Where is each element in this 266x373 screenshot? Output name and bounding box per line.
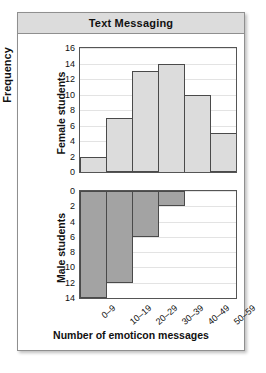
bar <box>80 191 107 298</box>
page-title: Text Messaging <box>89 17 174 29</box>
bar <box>132 191 159 237</box>
y-axis-tick-label: 6 <box>49 233 75 242</box>
y-axis-tick-label: 2 <box>49 153 75 162</box>
y-axis-tick-label: 8 <box>49 106 75 115</box>
y-axis-tick-label: 14 <box>49 60 75 69</box>
y-axis-tick-label: 8 <box>49 248 75 257</box>
plot-area-female <box>79 47 237 173</box>
y-axis-tick-label: 14 <box>49 294 75 303</box>
bar <box>158 191 185 206</box>
bar <box>106 118 133 172</box>
x-axis-tick-label: 40–49 <box>206 303 232 327</box>
chart-title-banner: Text Messaging <box>18 13 244 34</box>
bar <box>210 133 237 172</box>
y-axis-tick-label: 12 <box>49 279 75 288</box>
y-axis-tick-label: 12 <box>49 75 75 84</box>
bar <box>158 64 185 173</box>
x-axis-tick-label: 50–59 <box>232 303 258 327</box>
y-axis-tick-label: 4 <box>49 218 75 227</box>
x-axis-tick-label: 10–19 <box>128 303 154 327</box>
bar <box>184 95 211 173</box>
y-axis-tick-label: 10 <box>49 263 75 272</box>
y-axis-label-frequency: Frequency <box>1 15 13 135</box>
bar <box>80 157 107 173</box>
figure-page: Text Messaging Female students Male stud… <box>0 0 266 373</box>
x-axis-tick-label: 0–9 <box>100 303 118 320</box>
y-axis-tick-label: 4 <box>49 137 75 146</box>
bars-male <box>80 191 236 298</box>
y-axis-tick-label: 16 <box>49 44 75 53</box>
bar <box>106 191 133 283</box>
chart-figure: Text Messaging Female students Male stud… <box>17 12 245 351</box>
x-axis-tick-label: 30–39 <box>180 303 206 327</box>
y-axis-tick-label: 0 <box>49 187 75 196</box>
x-axis-tick-label: 20–29 <box>154 303 180 327</box>
gridline <box>80 298 236 299</box>
x-axis-label: Number of emoticon messages <box>18 329 244 341</box>
y-axis-tick-label: 6 <box>49 122 75 131</box>
bar <box>132 71 159 172</box>
bars-female <box>80 48 236 172</box>
y-axis-tick-label: 10 <box>49 91 75 100</box>
y-axis-tick-label: 2 <box>49 202 75 211</box>
plot-area-male <box>79 190 237 299</box>
y-axis-tick-label: 0 <box>49 168 75 177</box>
